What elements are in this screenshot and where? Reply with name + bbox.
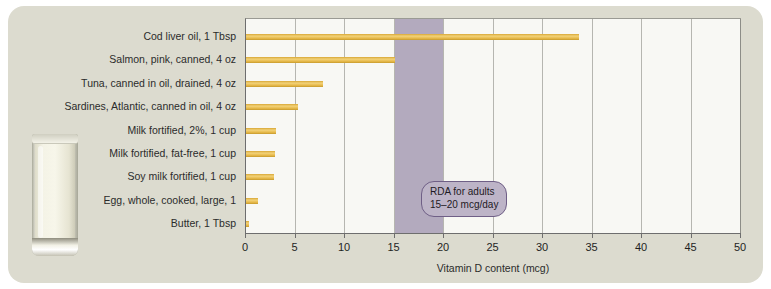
x-tick-label-0: 0 (242, 241, 248, 253)
glass-base (32, 238, 78, 256)
gridline-15 (394, 19, 395, 234)
gridline-5 (295, 19, 296, 234)
gridline-45 (691, 19, 692, 234)
bar (246, 221, 249, 227)
x-tick-15 (394, 233, 395, 238)
x-tick-label-50: 50 (734, 241, 746, 253)
x-tick-10 (344, 233, 345, 238)
x-tick-label-30: 30 (536, 241, 548, 253)
x-tick-50 (740, 233, 741, 238)
x-tick-20 (443, 233, 444, 238)
category-label: Tuna, canned in oil, drained, 4 oz (56, 78, 236, 89)
bar (246, 174, 274, 180)
x-tick-25 (493, 233, 494, 238)
category-label: Salmon, pink, canned, 4 oz (56, 54, 236, 65)
bar (246, 128, 276, 134)
category-labels: Cod liver oil, 1 TbspSalmon, pink, canne… (58, 18, 240, 233)
gridline-10 (344, 19, 345, 234)
bar (246, 81, 323, 87)
bar (246, 57, 395, 63)
category-label: Milk fortified, fat-free, 1 cup (56, 148, 236, 159)
category-label: Sardines, Atlantic, canned in oil, 4 oz (56, 101, 236, 112)
x-tick-45 (691, 233, 692, 238)
x-tick-label-5: 5 (291, 241, 297, 253)
x-tick-label-45: 45 (684, 241, 696, 253)
bar (246, 34, 579, 40)
x-tick-30 (542, 233, 543, 238)
x-tick-35 (592, 233, 593, 238)
x-axis-title: Vitamin D content (mcg) (245, 262, 741, 274)
bar (246, 151, 275, 157)
gridline-35 (592, 19, 593, 234)
x-tick-5 (295, 233, 296, 238)
x-tick-label-20: 20 (437, 241, 449, 253)
glass-highlight (38, 146, 43, 238)
x-tick-40 (641, 233, 642, 238)
category-label: Soy milk fortified, 1 cup (56, 171, 236, 182)
category-label: Egg, whole, cooked, large, 1 (56, 195, 236, 206)
vitamin-d-chart-figure: Cod liver oil, 1 TbspSalmon, pink, canne… (0, 0, 771, 289)
x-tick-label-40: 40 (635, 241, 647, 253)
x-tick-label-35: 35 (585, 241, 597, 253)
bar (246, 104, 298, 110)
bar (246, 198, 258, 204)
x-tick-label-10: 10 (338, 241, 350, 253)
rda-callout-line2: 15–20 mcg/day (430, 199, 498, 212)
category-label: Butter, 1 Tbsp (56, 218, 236, 229)
x-tick-label-15: 15 (387, 241, 399, 253)
gridline-30 (542, 19, 543, 234)
gridline-40 (641, 19, 642, 234)
x-tick-label-25: 25 (486, 241, 498, 253)
rda-callout-line1: RDA for adults (430, 186, 498, 199)
rda-callout: RDA for adults 15–20 mcg/day (421, 181, 507, 217)
category-label: Milk fortified, 2%, 1 cup (56, 125, 236, 136)
gridline-50 (740, 19, 741, 234)
category-label: Cod liver oil, 1 Tbsp (56, 31, 236, 42)
x-tick-0 (245, 233, 246, 238)
